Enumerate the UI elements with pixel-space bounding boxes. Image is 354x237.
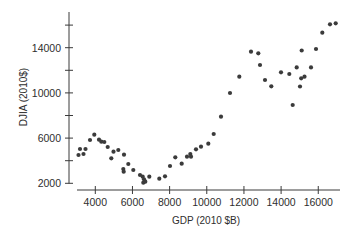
data-point xyxy=(111,150,115,154)
data-point xyxy=(168,164,172,168)
x-axis: 40006000800010000120001400016000 GDP (20… xyxy=(77,186,340,226)
x-axis-title: GDP (2010 $B) xyxy=(172,215,240,226)
y-tick-label: 14000 xyxy=(32,42,61,54)
data-point xyxy=(279,70,283,74)
data-point xyxy=(76,153,80,157)
data-point xyxy=(180,162,184,166)
data-point xyxy=(298,84,302,88)
data-point xyxy=(194,147,198,151)
data-point xyxy=(295,65,299,69)
data-point xyxy=(83,147,87,151)
y-tick-label: 6000 xyxy=(38,132,62,144)
data-point xyxy=(263,78,267,82)
data-point xyxy=(88,138,92,142)
data-point xyxy=(328,22,332,26)
data-point xyxy=(291,103,295,107)
data-point xyxy=(219,115,223,119)
x-tick-label: 4000 xyxy=(84,196,108,208)
data-point xyxy=(163,174,167,178)
data-point xyxy=(78,147,82,151)
data-point xyxy=(143,180,147,184)
data-point xyxy=(173,155,177,159)
y-axis-title: DJIA (2010$) xyxy=(18,68,29,126)
x-tick-label: 16000 xyxy=(304,196,333,208)
data-point xyxy=(300,48,304,52)
data-point xyxy=(109,156,113,160)
data-point xyxy=(269,84,273,88)
x-tick-label: 14000 xyxy=(266,196,295,208)
data-point xyxy=(126,162,130,166)
x-ticks: 40006000800010000120001400016000 xyxy=(84,186,333,208)
y-tick-label: 10000 xyxy=(32,87,61,99)
data-point xyxy=(92,133,96,137)
data-point xyxy=(147,175,151,179)
data-point xyxy=(199,145,203,149)
x-tick-label: 12000 xyxy=(229,196,258,208)
data-point xyxy=(258,63,262,67)
y-tick-label: 2000 xyxy=(38,177,62,189)
data-point xyxy=(102,140,106,144)
data-points xyxy=(76,21,337,185)
data-point xyxy=(309,65,313,69)
data-point xyxy=(189,155,193,159)
data-point xyxy=(81,152,85,156)
data-point xyxy=(256,51,260,55)
data-point xyxy=(302,75,306,79)
data-point xyxy=(131,168,135,172)
data-point xyxy=(228,91,232,95)
x-tick-label: 8000 xyxy=(158,196,182,208)
data-point xyxy=(287,72,291,76)
data-point xyxy=(212,132,216,136)
y-ticks: 200060001000014000 xyxy=(32,25,73,189)
data-point xyxy=(334,21,338,25)
data-point xyxy=(122,170,126,174)
data-point xyxy=(122,153,126,157)
y-axis: 200060001000014000 DJIA (2010$) xyxy=(18,12,73,189)
data-point xyxy=(185,155,189,159)
x-tick-label: 10000 xyxy=(192,196,221,208)
x-tick-label: 6000 xyxy=(121,196,145,208)
data-point xyxy=(249,50,253,54)
data-point xyxy=(116,148,120,152)
data-point xyxy=(320,31,324,35)
data-point xyxy=(237,75,241,79)
data-point xyxy=(206,142,210,146)
data-point xyxy=(314,47,318,51)
data-point xyxy=(106,145,110,149)
scatter-chart: 200060001000014000 DJIA (2010$) 40006000… xyxy=(0,0,354,237)
data-point xyxy=(157,177,161,181)
